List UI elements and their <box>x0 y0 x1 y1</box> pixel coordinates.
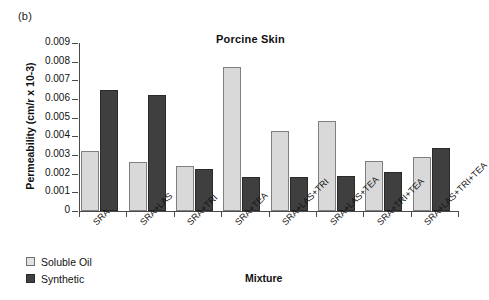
y-tick-label: 0.006 <box>8 92 70 103</box>
legend-item-soluble-oil: Soluble Oil <box>26 253 92 270</box>
x-tick-mark <box>458 212 459 217</box>
x-tick-mark <box>316 212 317 217</box>
x-tick-mark <box>126 212 127 217</box>
x-tick-mark <box>221 212 222 217</box>
y-tick-mark <box>72 118 78 119</box>
x-axis-title: Mixture <box>245 272 282 284</box>
legend-swatch-synthetic <box>26 274 35 283</box>
x-tick-mark <box>363 212 364 217</box>
y-tick-mark <box>72 99 78 100</box>
y-tick-mark <box>72 192 78 193</box>
x-tick-mark <box>269 212 270 217</box>
bar-soluble-oil-4 <box>271 131 289 211</box>
y-tick-label: 0.008 <box>8 55 70 66</box>
y-tick-mark <box>72 80 78 81</box>
bar-synthetic-0 <box>100 90 118 211</box>
y-tick-mark <box>72 62 78 63</box>
bar-soluble-oil-3 <box>223 67 241 211</box>
y-tick-label: 0.002 <box>8 167 70 178</box>
panel-letter: (b) <box>18 10 32 22</box>
bar-soluble-oil-0 <box>81 151 99 211</box>
y-tick-mark <box>72 211 78 212</box>
y-tick-label: 0 <box>8 204 70 215</box>
y-tick-label: 0.001 <box>8 185 70 196</box>
y-tick-label: 0.009 <box>8 36 70 47</box>
legend-item-synthetic: Synthetic <box>26 270 92 287</box>
bar-soluble-oil-1 <box>129 162 147 211</box>
bar-soluble-oil-2 <box>176 166 194 211</box>
y-tick-label: 0.004 <box>8 129 70 140</box>
x-tick-mark <box>174 212 175 217</box>
y-tick-mark <box>72 136 78 137</box>
y-tick-label: 0.007 <box>8 73 70 84</box>
legend-label-soluble-oil: Soluble Oil <box>41 256 92 268</box>
y-tick-label: 0.003 <box>8 148 70 159</box>
x-tick-mark <box>79 212 80 217</box>
y-tick-mark <box>72 155 78 156</box>
y-tick-mark <box>72 43 78 44</box>
bar-soluble-oil-5 <box>318 121 336 211</box>
x-tick-mark <box>411 212 412 217</box>
legend: Soluble Oil Synthetic <box>26 253 92 287</box>
legend-swatch-soluble-oil <box>26 257 35 266</box>
y-tick-mark <box>72 174 78 175</box>
plot-area <box>79 43 458 211</box>
y-tick-label: 0.005 <box>8 111 70 122</box>
legend-label-synthetic: Synthetic <box>41 273 84 285</box>
